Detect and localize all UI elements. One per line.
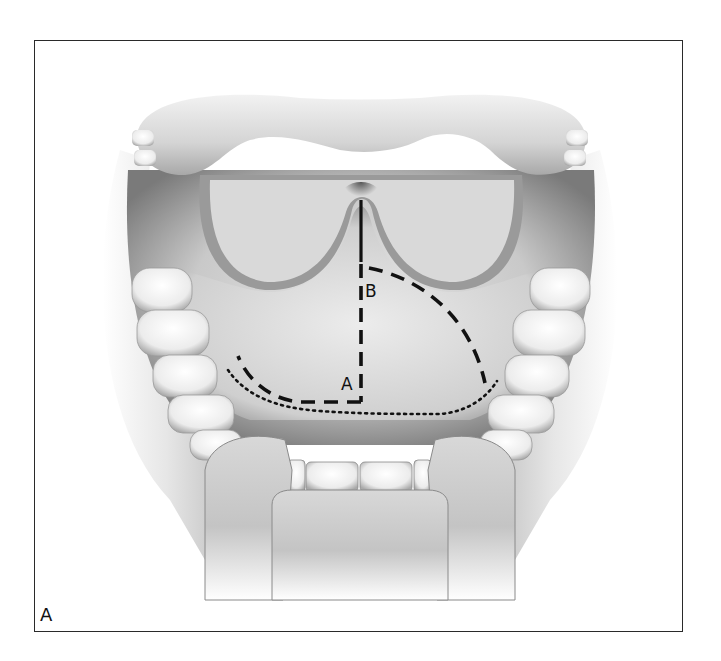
upper-lip	[137, 95, 585, 175]
label-point-a: A	[341, 376, 353, 393]
upper-right-tooth	[564, 150, 586, 166]
upper-left-tooth	[134, 150, 156, 166]
label-point-b: B	[365, 283, 377, 300]
upper-left-tooth	[132, 130, 154, 146]
panel-label: A	[40, 606, 52, 624]
upper-right-tooth	[566, 130, 588, 146]
lower-lip-retractor	[272, 490, 448, 600]
lower-incisors	[287, 460, 432, 492]
oral-cavity-illustration	[0, 0, 721, 661]
